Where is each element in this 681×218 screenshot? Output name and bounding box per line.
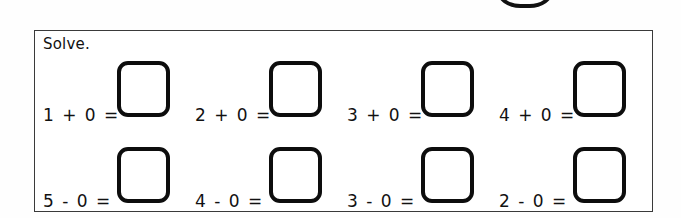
- answer-box[interactable]: [573, 61, 626, 117]
- problem-expression: 5 - 0 =: [43, 191, 112, 211]
- problem-item: 2 - 0 =: [495, 143, 645, 215]
- problem-expression: 2 - 0 =: [499, 191, 568, 211]
- answer-box[interactable]: [117, 147, 170, 203]
- problem-expression: 4 + 0 =: [499, 105, 576, 125]
- answer-box[interactable]: [421, 61, 474, 117]
- answer-box[interactable]: [269, 147, 322, 203]
- problem-expression: 4 - 0 =: [195, 191, 264, 211]
- problem-expression: 2 + 0 =: [195, 105, 272, 125]
- problem-item: 2 + 0 =: [191, 57, 341, 129]
- problem-item: 3 - 0 =: [343, 143, 493, 215]
- answer-box[interactable]: [421, 147, 474, 203]
- problem-item: 5 - 0 =: [39, 143, 189, 215]
- problem-expression: 3 + 0 =: [347, 105, 424, 125]
- worksheet-frame: Solve. 1 + 0 = 2 + 0 = 3 + 0 = 4 + 0 =: [34, 30, 653, 212]
- worksheet-page: Solve. 1 + 0 = 2 + 0 = 3 + 0 = 4 + 0 =: [0, 0, 681, 218]
- problem-item: 4 - 0 =: [191, 143, 341, 215]
- circle-stamp-icon: [497, 0, 553, 8]
- subtraction-row: 5 - 0 = 4 - 0 = 3 - 0 = 2 - 0 =: [35, 143, 654, 215]
- problem-expression: 3 - 0 =: [347, 191, 416, 211]
- problem-expression: 1 + 0 =: [43, 105, 120, 125]
- answer-box[interactable]: [573, 147, 626, 203]
- problem-item: 1 + 0 =: [39, 57, 189, 129]
- addition-row: 1 + 0 = 2 + 0 = 3 + 0 = 4 + 0 =: [35, 57, 654, 129]
- answer-box[interactable]: [117, 61, 170, 117]
- instruction-text: Solve.: [43, 35, 90, 53]
- problem-item: 4 + 0 =: [495, 57, 645, 129]
- answer-box[interactable]: [269, 61, 322, 117]
- problem-item: 3 + 0 =: [343, 57, 493, 129]
